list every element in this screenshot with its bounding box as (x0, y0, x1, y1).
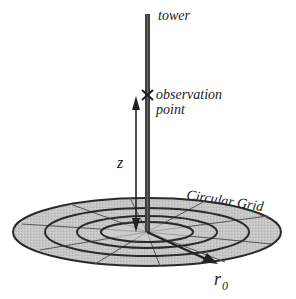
observation-label-line2: point (155, 102, 186, 117)
tower-label: tower (158, 8, 190, 23)
radius-label: r0 (214, 269, 228, 293)
tower (145, 14, 150, 232)
height-label: z (116, 154, 124, 171)
observation-label-line1: observation (156, 87, 222, 102)
tower-grid-diagram: tower observation point z Circular Grid … (0, 0, 296, 299)
radius-subscript: 0 (222, 279, 228, 293)
